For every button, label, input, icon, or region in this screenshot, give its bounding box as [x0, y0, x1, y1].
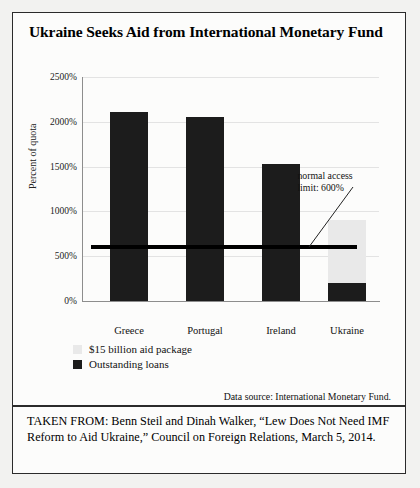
- data-source-note: Data source: International Monetary Fund…: [224, 391, 391, 402]
- legend-item-loans[interactable]: Outstanding loans: [73, 358, 192, 370]
- legend-swatch-loans-icon: [73, 360, 82, 369]
- ytick-label-1500: 1500%: [50, 162, 77, 172]
- gridline-0: 0%: [83, 301, 379, 302]
- legend-label-aid: $15 billion aid package: [89, 343, 192, 355]
- y-axis-title: Percent of quota: [27, 123, 38, 189]
- legend-swatch-aid-icon: [73, 345, 82, 354]
- xtick-label-portugal: Portugal: [167, 325, 243, 336]
- reference-line-annotation: normal access limit: 600%: [297, 170, 352, 194]
- gridline-2500: 2500%: [83, 77, 379, 78]
- ytick-label-500: 500%: [55, 251, 77, 261]
- bar-segment-loans: [110, 112, 148, 301]
- xtick-label-ireland: Ireland: [243, 325, 319, 336]
- annotation-line-1: normal access: [297, 170, 352, 182]
- bar-segment-loans: [186, 117, 224, 301]
- ytick-label-0: 0%: [64, 296, 77, 306]
- chart-area: Percent of quota 2500% 2000% 1500% 1000%…: [13, 57, 405, 403]
- xtick-label-greece: Greece: [91, 325, 167, 336]
- legend-label-loans: Outstanding loans: [89, 358, 169, 370]
- annotation-leader-line: [297, 185, 357, 249]
- bar-segment-loans: [328, 283, 366, 301]
- y-axis-line: [82, 77, 83, 301]
- bar-segment-loans: [262, 164, 300, 301]
- footer-divider: [13, 405, 405, 407]
- footer-attribution: TAKEN FROM: Benn Steil and Dinah Walker,…: [27, 413, 393, 446]
- figure-panel: Ukraine Seeks Aid from International Mon…: [12, 12, 406, 474]
- legend: $15 billion aid package Outstanding loan…: [73, 343, 192, 373]
- chart-title: Ukraine Seeks Aid from International Mon…: [29, 23, 391, 42]
- ytick-label-2500: 2500%: [50, 72, 77, 82]
- legend-item-aid[interactable]: $15 billion aid package: [73, 343, 192, 355]
- annotation-line-2: limit: 600%: [297, 182, 352, 194]
- xtick-label-ukraine: Ukraine: [309, 325, 385, 336]
- ytick-label-2000: 2000%: [50, 117, 77, 127]
- ytick-label-1000: 1000%: [50, 206, 77, 216]
